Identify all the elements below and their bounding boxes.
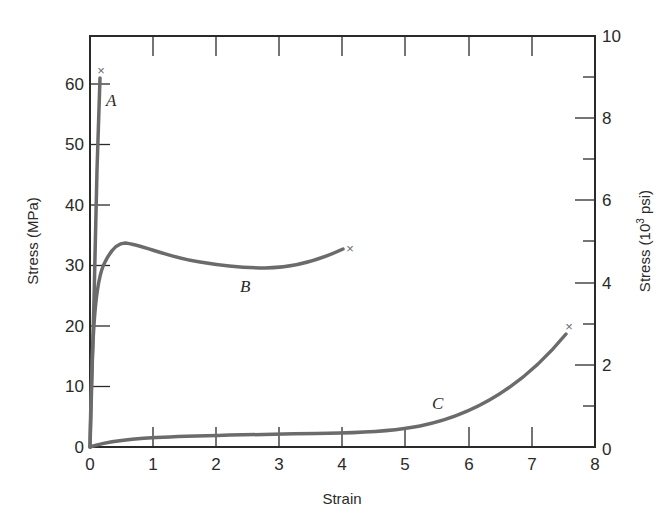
x-axis-title: Strain (322, 490, 361, 507)
curve-label-a: A (105, 91, 117, 110)
x-tick-5: 5 (400, 455, 409, 474)
x-tick-3: 3 (274, 455, 283, 474)
curve-b (90, 243, 343, 447)
y-tick-10: 10 (65, 377, 84, 396)
y-right-tick-6: 6 (602, 191, 611, 210)
y-tick-0: 0 (75, 438, 84, 457)
y-tick-20: 20 (65, 317, 84, 336)
x-axis-top-ticks (153, 36, 532, 56)
x-tick-8: 8 (590, 455, 599, 474)
curves (90, 78, 566, 447)
y-axis-right-ticks (575, 77, 595, 406)
x-tick-7: 7 (527, 455, 536, 474)
y-right-tick-4: 4 (602, 274, 611, 293)
y-left-tick-labels: 0 10 20 30 40 50 60 (65, 75, 84, 457)
plot-frame (90, 36, 595, 447)
y-tick-30: 30 (65, 256, 84, 275)
y-right-tick-2: 2 (602, 356, 611, 375)
curve-label-b: B (240, 277, 251, 296)
x-tick-6: 6 (464, 455, 473, 474)
fracture-markers: × × × (97, 63, 573, 334)
x-tick-2: 2 (211, 455, 220, 474)
x-tick-4: 4 (337, 455, 346, 474)
curve-c (90, 334, 566, 447)
x-tick-0: 0 (85, 455, 94, 474)
x-tick-labels: 0 1 2 3 4 5 6 7 8 (85, 455, 599, 474)
y-right-tick-labels: 0 2 4 6 8 10 (602, 27, 621, 459)
fracture-marker-a: × (97, 63, 105, 78)
y-right-tick-8: 8 (602, 109, 611, 128)
fracture-marker-b: × (346, 241, 354, 256)
x-tick-1: 1 (148, 455, 157, 474)
stress-strain-chart: 0 1 2 3 4 5 6 7 8 0 10 20 30 40 50 60 0 … (0, 0, 669, 532)
y-right-tick-0: 0 (602, 440, 611, 459)
y-right-tick-10: 10 (602, 27, 621, 46)
y-axis-right-title: Stress (103 psi) (635, 190, 653, 292)
y-tick-60: 60 (65, 75, 84, 94)
y-tick-40: 40 (65, 196, 84, 215)
fracture-marker-c: × (565, 319, 573, 334)
curve-label-c: C (432, 394, 444, 413)
y-tick-50: 50 (65, 135, 84, 154)
y-axis-left-title: Stress (MPa) (24, 197, 41, 285)
